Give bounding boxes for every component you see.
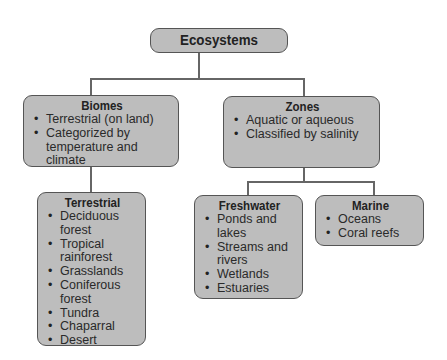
connector-zones-down xyxy=(303,168,305,182)
list-item: Terrestrial (on land) xyxy=(46,113,166,127)
list-item: Chaparral xyxy=(60,320,130,334)
list-item: Coniferous forest xyxy=(60,279,130,307)
bullet-list: Aquatic or aqueous Classified by salinit… xyxy=(232,114,373,142)
connector-to-biomes xyxy=(90,78,92,95)
node-title: Terrestrial xyxy=(50,196,136,210)
node-zones: Zones Aquatic or aqueous Classified by s… xyxy=(223,96,380,168)
node-terrestrial: Terrestrial Deciduous forest Tropical ra… xyxy=(37,192,146,346)
node-marine: Marine Oceans Coral reefs xyxy=(315,195,424,246)
node-ecosystems: Ecosystems xyxy=(150,28,288,53)
list-item: Estuaries xyxy=(217,282,299,296)
list-item: Tundra xyxy=(60,307,130,321)
bullet-list: Oceans Coral reefs xyxy=(324,213,417,241)
node-biomes: Biomes Terrestrial (on land) Categorized… xyxy=(23,95,179,167)
list-item: Streams and rivers xyxy=(217,241,299,269)
list-item: Categorized by temperature and climate xyxy=(46,127,166,168)
list-item: Coral reefs xyxy=(338,227,417,241)
list-item: Desert xyxy=(60,334,130,348)
connector-to-marine xyxy=(373,181,375,195)
node-title: Zones xyxy=(238,100,368,114)
connector-biomes-terrestrial xyxy=(90,166,92,192)
connector-root-down xyxy=(198,53,200,78)
list-item: Wetlands xyxy=(217,268,299,282)
bullet-list: Deciduous forest Tropical rainforest Gra… xyxy=(46,210,130,348)
list-item: Classified by salinity xyxy=(246,128,373,142)
bullet-list: Ponds and lakes Streams and rivers Wetla… xyxy=(203,213,299,296)
list-item: Ponds and lakes xyxy=(217,213,299,241)
list-item: Grasslands xyxy=(60,265,130,279)
node-title: Marine xyxy=(328,199,414,213)
list-item: Aquatic or aqueous xyxy=(246,114,373,128)
node-title: Freshwater xyxy=(207,199,293,213)
list-item: Deciduous forest xyxy=(60,210,130,238)
list-item: Tropical rainforest xyxy=(60,238,130,266)
node-freshwater: Freshwater Ponds and lakes Streams and r… xyxy=(194,195,303,299)
connector-to-freshwater xyxy=(247,181,249,195)
bullet-list: Terrestrial (on land) Categorized by tem… xyxy=(32,113,166,168)
connector-zones-horizontal xyxy=(247,181,374,183)
node-title: Ecosystems xyxy=(156,33,281,47)
connector-to-zones xyxy=(303,78,305,96)
connector-root-horizontal xyxy=(90,78,304,80)
node-title: Biomes xyxy=(38,99,167,113)
list-item: Oceans xyxy=(338,213,417,227)
